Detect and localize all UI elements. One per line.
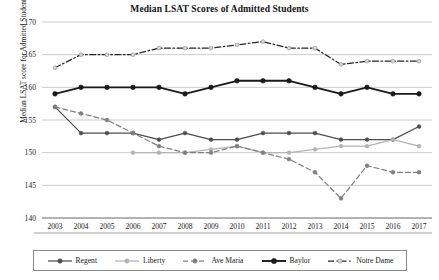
legend-label: Regent (76, 256, 98, 265)
x-axis-tick-2016: 2016 (385, 222, 400, 231)
legend-item-baylor[interactable]: Baylor (261, 256, 311, 266)
data-point (209, 151, 213, 155)
data-point (391, 59, 395, 63)
legend-marker (271, 258, 276, 263)
series-liberty (131, 138, 421, 155)
series-line-regent (55, 107, 419, 140)
y-axis-tick-140: 140 (25, 214, 37, 223)
data-point (287, 151, 291, 155)
data-point (157, 85, 162, 90)
data-point (365, 164, 369, 168)
legend-swatch (182, 256, 208, 266)
data-point (157, 138, 161, 142)
data-point (417, 125, 421, 129)
legend-label: Notre Dame (356, 256, 393, 265)
legend-item-regent[interactable]: Regent (47, 256, 98, 266)
legend-swatch (114, 256, 140, 266)
data-point (131, 53, 135, 57)
data-point (417, 144, 421, 148)
data-point (365, 138, 369, 142)
data-point (105, 53, 109, 57)
x-axis-tick-2006: 2006 (125, 222, 140, 231)
data-point (79, 53, 83, 57)
y-axis-label: Median LSAT score for Admitted Students (19, 0, 28, 145)
data-point (339, 138, 343, 142)
series-regent (53, 105, 421, 141)
data-point (391, 170, 395, 174)
x-axis-tick-2009: 2009 (203, 222, 218, 231)
data-point (53, 105, 57, 109)
data-point (131, 85, 136, 90)
data-point (261, 40, 265, 44)
chart-title: Median LSAT Scores of Admitted Students (0, 4, 439, 14)
data-point (339, 144, 343, 148)
data-point (105, 131, 109, 135)
data-point (157, 144, 161, 148)
x-axis-tick-2008: 2008 (177, 222, 192, 231)
data-point (313, 131, 317, 135)
legend-swatch (261, 256, 287, 266)
data-point (391, 138, 395, 142)
data-point (235, 79, 240, 84)
chart-legend: RegentLibertyAve MariaBaylorNotre Dame (33, 250, 407, 271)
data-point (79, 85, 84, 90)
data-point (209, 85, 214, 90)
data-point (417, 92, 422, 97)
legend-swatch (47, 256, 73, 266)
x-axis-tick-2004: 2004 (73, 222, 88, 231)
data-point (287, 157, 291, 161)
legend-swatch (327, 256, 353, 266)
data-point (79, 131, 83, 135)
x-axis-tick-2017: 2017 (411, 222, 426, 231)
data-point (287, 131, 291, 135)
data-point (365, 144, 369, 148)
legend-marker (193, 258, 197, 262)
data-point (313, 170, 317, 174)
y-axis-tick-145: 145 (25, 181, 37, 190)
data-point (313, 85, 318, 90)
data-point (235, 43, 239, 47)
legend-label: Liberty (143, 256, 165, 265)
data-point (131, 151, 135, 155)
data-point (131, 131, 135, 135)
data-point (261, 79, 266, 84)
x-axis-tick-2012: 2012 (281, 222, 296, 231)
legend-item-ave-maria[interactable]: Ave Maria (182, 256, 243, 266)
data-point (53, 66, 57, 70)
data-point (391, 92, 396, 97)
x-axis-tick-2014: 2014 (333, 222, 348, 231)
x-axis-tick-2010: 2010 (229, 222, 244, 231)
data-point (313, 46, 317, 50)
x-axis-tick-2005: 2005 (99, 222, 114, 231)
legend-label: Ave Maria (211, 256, 243, 265)
x-axis-tick-2003: 2003 (47, 222, 62, 231)
data-point (105, 85, 110, 90)
data-point (209, 46, 213, 50)
x-axis-tick-2007: 2007 (151, 222, 166, 231)
data-point (417, 170, 421, 174)
data-point (183, 131, 187, 135)
legend-marker (125, 258, 129, 262)
data-point (235, 144, 239, 148)
legend-marker (57, 258, 61, 262)
data-point (235, 138, 239, 142)
y-axis-tick-150: 150 (25, 148, 37, 157)
x-axis-tick-2015: 2015 (359, 222, 374, 231)
chart-figure: Median LSAT Scores of Admitted Students … (0, 0, 439, 280)
legend-item-notre-dame[interactable]: Notre Dame (327, 256, 393, 266)
data-point (339, 92, 344, 97)
legend-marker (338, 258, 342, 262)
data-point (105, 118, 109, 122)
data-point (287, 79, 292, 84)
data-point (365, 85, 370, 90)
legend-item-liberty[interactable]: Liberty (114, 256, 165, 266)
data-point (183, 92, 188, 97)
data-point (287, 46, 291, 50)
legend-label: Baylor (290, 256, 311, 265)
data-point (365, 59, 369, 63)
data-point (53, 92, 58, 97)
data-point (417, 59, 421, 63)
data-point (261, 151, 265, 155)
x-axis-tick-2013: 2013 (307, 222, 322, 231)
data-point (339, 197, 343, 201)
